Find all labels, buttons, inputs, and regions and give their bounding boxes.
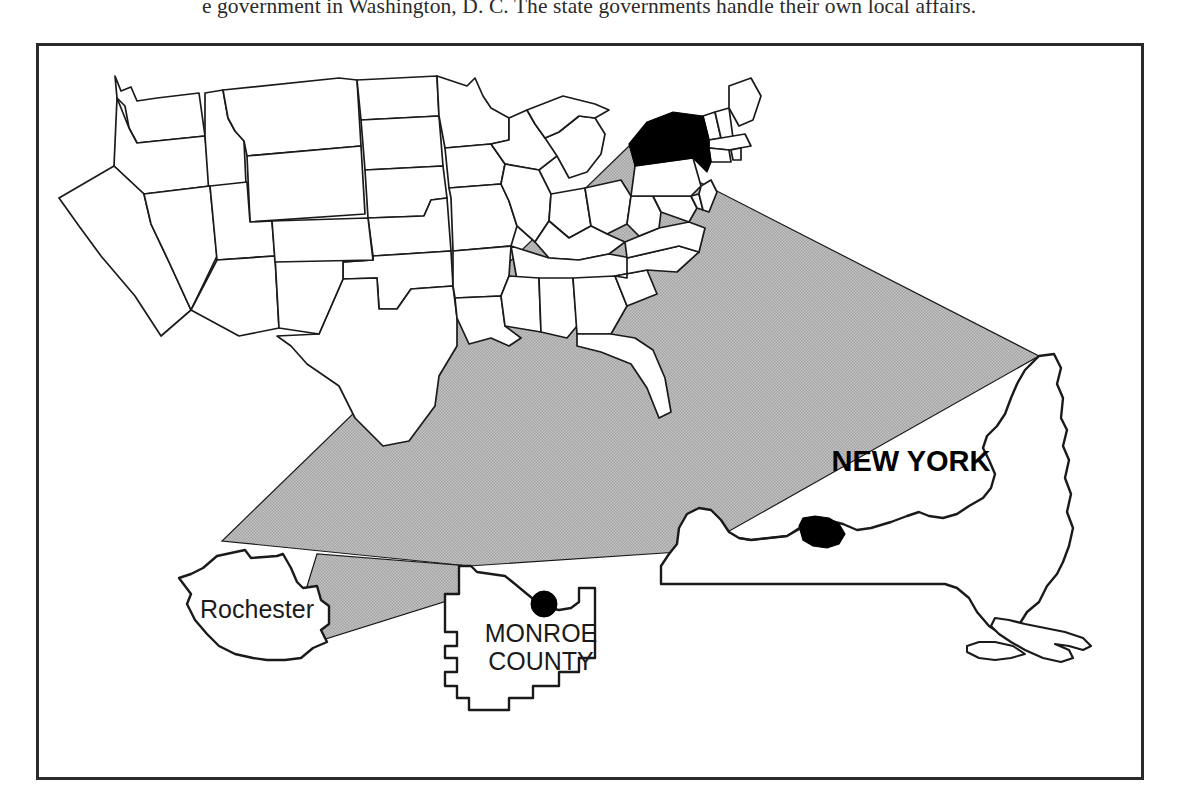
label-new-york-line1: NEW YORK bbox=[832, 445, 991, 477]
label-monroe-county-line1: MONROE bbox=[485, 619, 598, 647]
page-body-text: e government in Washington, D. C. The st… bbox=[0, 0, 1178, 19]
state-alabama bbox=[539, 278, 577, 338]
state-maine bbox=[729, 78, 761, 126]
state-arkansas bbox=[453, 246, 511, 298]
map-united-states bbox=[59, 76, 761, 446]
state-rhode-island bbox=[731, 148, 741, 160]
label-monroe-county-line2: COUNTY bbox=[488, 647, 594, 675]
state-south-dakota bbox=[361, 116, 443, 170]
state-connecticut bbox=[709, 148, 731, 162]
figure-frame: NEW YORK MONROE COUNTY Rochester bbox=[36, 43, 1144, 780]
rochester-dot-on-county bbox=[531, 591, 557, 617]
figure-canvas: NEW YORK MONROE COUNTY Rochester bbox=[39, 46, 1141, 777]
label-rochester: Rochester bbox=[200, 595, 314, 623]
state-north-dakota bbox=[357, 76, 439, 120]
state-wyoming bbox=[247, 146, 365, 222]
state-minnesota bbox=[437, 76, 509, 148]
state-colorado bbox=[272, 218, 373, 262]
map-rochester-enlarged: Rochester bbox=[179, 550, 329, 660]
state-mississippi bbox=[501, 276, 541, 332]
locator-map-svg: NEW YORK MONROE COUNTY Rochester bbox=[39, 46, 1141, 777]
map-monroe-county-enlarged: MONROE COUNTY bbox=[445, 566, 597, 710]
